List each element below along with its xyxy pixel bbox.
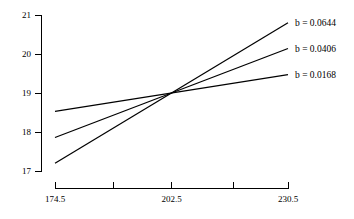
x-axis: 174.5202.5230.5	[45, 182, 299, 204]
chart-canvas: 1718192021 174.5202.5230.5 b = 0.0644b =…	[0, 0, 354, 219]
y-axis: 1718192021	[22, 10, 42, 176]
series-annotation-2: b = 0.0168	[295, 70, 336, 80]
series-label-group: b = 0.0644b = 0.0406b = 0.0168	[295, 18, 336, 80]
regression-lines-chart: 1718192021 174.5202.5230.5 b = 0.0644b =…	[0, 0, 354, 219]
series-annotation-1: b = 0.0406	[295, 44, 336, 54]
y-tick-label: 17	[22, 166, 32, 176]
x-tick-label: 202.5	[161, 194, 182, 204]
data-line-2	[55, 75, 288, 112]
x-tick-label: 174.5	[45, 194, 66, 204]
y-tick-label: 19	[22, 88, 32, 98]
series-annotation-0: b = 0.0644	[295, 18, 336, 28]
x-tick-label: 230.5	[278, 194, 299, 204]
y-tick-group: 1718192021	[22, 10, 42, 176]
data-series-group	[55, 23, 288, 163]
y-tick-label: 20	[22, 49, 32, 59]
y-tick-label: 21	[22, 10, 31, 20]
y-tick-label: 18	[22, 127, 32, 137]
x-tick-group: 174.5202.5230.5	[45, 182, 299, 204]
